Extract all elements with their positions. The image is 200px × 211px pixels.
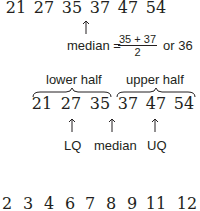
fraction-denominator: 2: [134, 46, 140, 58]
value: 27: [32, 0, 56, 17]
upper-half-label: upper half: [126, 72, 184, 87]
up-arrow-icon: [150, 118, 160, 132]
value: 54: [144, 0, 168, 17]
fraction-numerator: 35 + 37: [118, 33, 157, 46]
median-label: median =: [67, 38, 121, 53]
value: 12: [175, 194, 199, 211]
median-fraction: 35 + 37 2: [118, 33, 157, 58]
value: 27: [59, 94, 83, 113]
lq-label: LQ: [64, 138, 81, 153]
uq-label: UQ: [147, 138, 167, 153]
value: 54: [172, 94, 196, 113]
value: 11: [144, 194, 168, 211]
value: 37: [116, 94, 140, 113]
up-arrow-icon: [107, 118, 117, 132]
lower-half-label: lower half: [46, 72, 102, 87]
value: 21: [4, 0, 28, 17]
median-marker-label: median: [94, 138, 137, 153]
value: 37: [88, 0, 112, 17]
value: 9: [120, 194, 144, 211]
median-result: or 36: [163, 38, 193, 53]
value: 35: [60, 0, 84, 17]
up-arrow-icon: [67, 118, 77, 132]
value: 47: [144, 94, 168, 113]
value: 47: [116, 0, 140, 17]
value: 21: [30, 94, 54, 113]
value: 35: [88, 94, 112, 113]
up-arrow-icon: [81, 20, 91, 34]
